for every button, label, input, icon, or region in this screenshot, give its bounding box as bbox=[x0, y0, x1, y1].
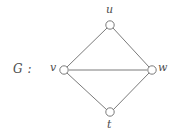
vertex-label-u: u bbox=[106, 4, 113, 16]
graph-vertex-u bbox=[106, 21, 114, 29]
nodes-group bbox=[60, 21, 156, 116]
edges-group bbox=[67, 28, 149, 110]
vertex-label-t: t bbox=[107, 119, 111, 131]
graph-vertex-v bbox=[60, 66, 68, 74]
graph-edge-v-u bbox=[67, 28, 107, 67]
graph-vertex-t bbox=[106, 108, 114, 116]
graph-figure: G : u v w t bbox=[0, 0, 175, 138]
graph-vertex-w bbox=[148, 66, 156, 74]
graph-edge-u-w bbox=[113, 28, 149, 67]
vertex-label-w: w bbox=[158, 62, 167, 74]
graph-drawing bbox=[0, 0, 175, 138]
graph-edge-v-t bbox=[67, 73, 107, 110]
graph-edge-t-w bbox=[113, 73, 149, 110]
vertex-label-v: v bbox=[50, 62, 56, 74]
